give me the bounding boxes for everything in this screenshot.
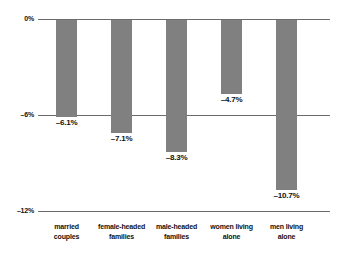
category-line: alone [254,232,320,242]
y-axis-tick-label-1: –6% [4,111,34,119]
y-axis-tick-label-2: –12% [4,207,34,215]
bar-value-label: –10.7% [260,191,314,200]
bar-men-living-alone [276,19,297,190]
x-axis-category-label: men living alone [254,222,320,241]
bar-value-label: –6.1% [40,118,94,127]
bar-male-headed-families [166,19,187,152]
bar-married-couples [56,19,77,117]
gridline-minus12-percent [38,211,330,212]
bar-female-headed-families [111,19,132,133]
bar-chart: 0% –6% –12% –6.1% –7.1% –8.3% –4.7% –10.… [0,0,337,263]
bar-value-label: –4.7% [205,95,259,104]
y-axis-tick-label-0: 0% [4,15,34,23]
category-line: men living [254,222,320,232]
bar-women-living-alone [221,19,242,94]
bar-value-label: –8.3% [150,153,204,162]
bar-value-label: –7.1% [95,134,149,143]
